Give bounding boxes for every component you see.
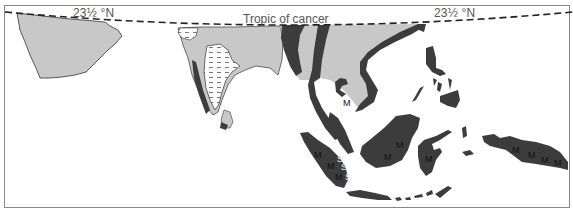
marker-m-sumatra-2: M [327, 161, 335, 171]
latitude-label-right: 23½ °N [434, 6, 475, 20]
marker-m-sulawesi: M [425, 154, 433, 164]
marker-m-sumatra-3: M [335, 172, 343, 182]
java [346, 190, 392, 200]
marker-m-newguinea-3: M [541, 155, 549, 165]
tropic-of-cancer-label: Tropic of cancer [243, 12, 329, 26]
marker-m-borneo-2: M [384, 152, 392, 162]
marker-m-borneo-1: M [396, 140, 404, 150]
marker-m-thailand: M [343, 98, 351, 108]
palawan [412, 86, 424, 102]
lesser-sunda-islands [395, 186, 452, 201]
marker-m-newguinea-1: M [512, 145, 520, 155]
philippines [426, 46, 460, 108]
marker-m-newguinea-2: M [528, 150, 536, 160]
map-svg [0, 0, 573, 213]
maluku-islands [462, 126, 474, 156]
sulawesi [418, 130, 452, 176]
latitude-label-left: 23½ °N [73, 6, 114, 20]
taiwan-fragment [418, 24, 426, 32]
marker-s-s4: S [346, 180, 352, 190]
marker-m-sumatra-1: M [314, 150, 322, 160]
marker-m-newguinea-4: M [554, 158, 562, 168]
marker-s-s2: S [341, 162, 347, 172]
arabia-region [17, 13, 122, 78]
